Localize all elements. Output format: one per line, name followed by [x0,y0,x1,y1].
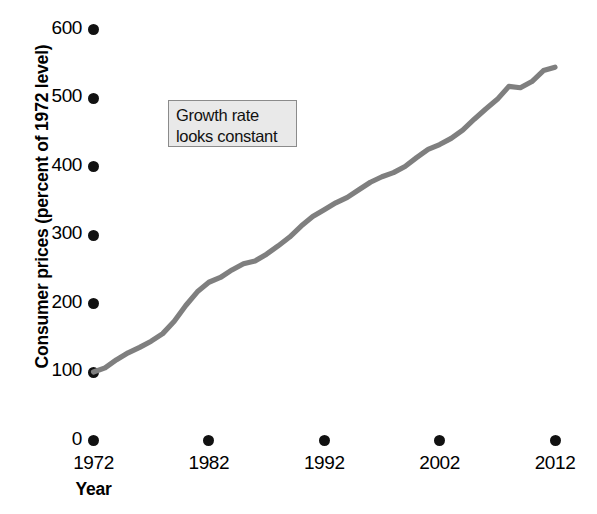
annotation-line-1: Growth rate [176,105,289,126]
chart-figure: Consumer prices (percent of 1972 level) … [0,0,597,514]
annotation-line-2: looks constant [176,126,289,147]
plot-area [0,0,597,514]
consumer-prices-line [94,67,556,372]
annotation-growth-rate: Growth rate looks constant [168,100,297,147]
